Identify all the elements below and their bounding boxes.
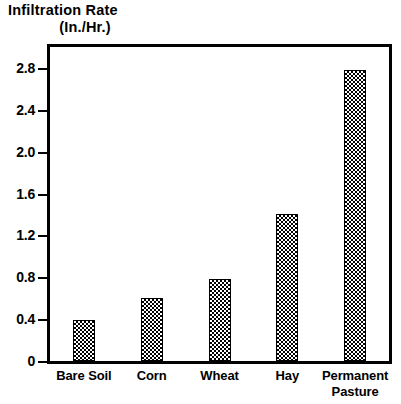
x-axis-label: Hay xyxy=(276,368,300,384)
chart-subtitle-units: (In./Hr.) xyxy=(8,19,198,36)
y-axis-tick-label: 0.4 xyxy=(16,311,35,327)
y-axis-tick-mark xyxy=(38,319,47,321)
x-axis-label-line: Pasture xyxy=(322,384,388,400)
y-axis-tick-mark xyxy=(38,152,47,154)
bar xyxy=(209,279,231,361)
y-axis-tick-mark xyxy=(38,194,47,196)
bar xyxy=(344,70,366,361)
x-axis-label: Bare Soil xyxy=(56,368,111,384)
page-title: Infiltration Rate xyxy=(8,2,198,19)
y-axis-tick-label: 1.2 xyxy=(16,227,35,243)
x-axis-label-line: Wheat xyxy=(200,368,239,384)
x-axis-label-line: Corn xyxy=(137,368,167,384)
y-axis-tick-mark xyxy=(38,277,47,279)
y-axis-tick-label: 1.6 xyxy=(16,186,35,202)
x-axis-label-line: Permanent xyxy=(322,368,388,384)
y-axis-tick-mark xyxy=(38,68,47,70)
chart-title-block: Infiltration Rate (In./Hr.) xyxy=(8,2,198,36)
y-axis-tick-mark xyxy=(38,110,47,112)
y-axis-tick-label: 0.8 xyxy=(16,269,35,285)
plot-area: 00.40.81.21.62.02.42.8 xyxy=(50,47,389,361)
x-axis-label: Corn xyxy=(137,368,167,384)
y-axis-tick-label: 2.8 xyxy=(16,60,35,76)
bar xyxy=(73,320,95,361)
x-axis-label-line: Hay xyxy=(276,368,300,384)
y-axis-tick-label: 2.0 xyxy=(16,144,35,160)
y-axis-tick-mark xyxy=(38,361,47,363)
y-axis-tick-label: 2.4 xyxy=(16,102,35,118)
x-axis-label-line: Bare Soil xyxy=(56,368,111,384)
x-axis-label: Wheat xyxy=(200,368,239,384)
bar xyxy=(276,214,298,361)
bar xyxy=(141,298,163,361)
y-axis-tick-label: 0 xyxy=(27,353,35,369)
x-axis-label: PermanentPasture xyxy=(322,368,388,400)
y-axis-tick-mark xyxy=(38,235,47,237)
